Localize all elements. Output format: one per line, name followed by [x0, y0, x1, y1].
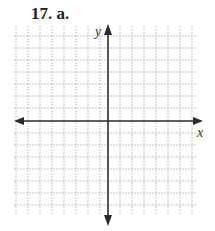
x-axis-right-arrow-icon — [193, 117, 203, 125]
grid-lines — [14, 26, 196, 214]
y-axis — [104, 24, 112, 226]
y-axis-label: y — [93, 24, 102, 39]
y-axis-up-arrow-icon — [104, 24, 112, 35]
y-axis-down-arrow-icon — [104, 215, 112, 226]
x-axis-left-arrow-icon — [14, 117, 24, 125]
coordinate-grid: y x — [0, 0, 215, 231]
x-axis-label: x — [196, 125, 204, 140]
